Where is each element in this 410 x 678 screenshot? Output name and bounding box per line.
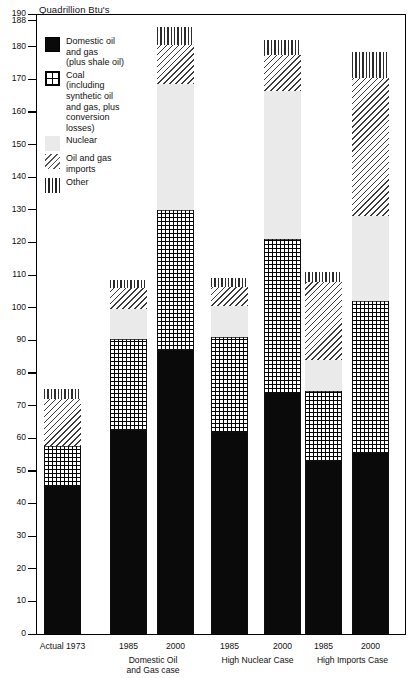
bar-3 [211,278,248,634]
vertical-stripe-swatch [45,178,60,193]
bar-5-segment-imports [305,282,342,360]
stacked-bar-chart: Quadrillion Btu's 1901881801701601501401… [0,0,410,678]
bar-3-segment-nuclear [211,306,248,337]
bar-6-segment-other [352,52,389,78]
legend-item-nuclear: Nuclear [45,135,160,151]
crosshatch-grid-swatch [45,71,60,86]
bar-4 [264,40,301,634]
bar-3-segment-domestic [211,432,248,634]
x-group-label-1: High Nuclear Case [205,655,310,665]
bar-1-segment-domestic [110,430,147,634]
bar-1-segment-nuclear [110,309,147,338]
y-tick-label-80: 80 [0,368,26,377]
bar-2-segment-imports [157,45,194,84]
y-tick-180 [28,46,37,47]
diagonal-hatch-swatch [45,154,60,169]
bar-0-segment-domestic [44,486,81,634]
plot-top-rule [36,14,406,15]
y-tick-30 [28,536,37,537]
y-tick-label-40: 40 [0,498,26,507]
y-tick-40 [28,503,37,504]
y-tick-label-20: 20 [0,564,26,573]
legend-item-domestic: Domestic oiland gas(plus shale oil) [45,36,160,68]
light-gray-swatch [45,136,60,151]
x-group-label-2: High Imports Case [300,655,405,665]
y-tick-label-30: 30 [0,531,26,540]
y-tick-110 [28,275,37,276]
bar-2-segment-nuclear [157,84,194,210]
y-tick-label-140: 140 [0,172,26,181]
legend-item-imports: Oil and gasimports [45,153,160,174]
bar-4-segment-imports [264,55,301,91]
y-axis-line [36,14,37,635]
bar-6-segment-domestic [352,453,389,634]
solid-black-swatch [45,37,60,52]
y-tick-70 [28,405,37,406]
legend-label-coal: Coal(includingsynthetic oiland gas, plus… [66,70,120,134]
x-axis-line [36,634,406,635]
bar-6-segment-imports [352,78,389,217]
y-tick-label-0: 0 [0,629,26,638]
bar-3-segment-coal [211,337,248,432]
bar-6-segment-coal [352,301,389,453]
bar-0-segment-imports [44,399,81,446]
y-tick-60 [28,438,37,439]
y-tick-188 [28,20,37,21]
legend-label-other: Other [66,177,89,188]
legend-label-imports: Oil and gasimports [66,153,112,174]
bar-0-segment-coal [44,446,81,485]
bar-1 [110,280,147,634]
legend-label-nuclear: Nuclear [66,135,97,146]
y-tick-label-110: 110 [0,270,26,279]
y-tick-0 [28,634,37,635]
y-tick-label-150: 150 [0,140,26,149]
chart-legend: Domestic oiland gas(plus shale oil)Coal(… [45,36,160,195]
x-label-0: Actual 1973 [28,641,97,651]
bar-2 [157,27,194,634]
y-tick-170 [28,79,37,80]
bar-5-segment-coal [305,391,342,461]
y-tick-label-170: 170 [0,74,26,83]
x-label-6: 2000 [336,641,405,651]
bar-6 [352,52,389,634]
y-tick-100 [28,307,37,308]
bar-1-segment-coal [110,339,147,430]
y-tick-label-160: 160 [0,107,26,116]
bar-4-segment-other [264,40,301,55]
y-tick-20 [28,568,37,569]
bar-0 [44,389,81,634]
x-group-label-0: Domestic Oiland Gas case [108,655,198,675]
y-tick-label-130: 130 [0,205,26,214]
legend-item-coal: Coal(includingsynthetic oiland gas, plus… [45,70,160,134]
y-tick-80 [28,372,37,373]
bar-4-segment-domestic [264,393,301,634]
bar-4-segment-nuclear [264,91,301,239]
y-tick-label-100: 100 [0,303,26,312]
y-tick-label-188: 188 [0,16,26,25]
y-tick-150 [28,144,37,145]
y-tick-190 [28,14,37,15]
bar-2-segment-coal [157,210,194,350]
y-tick-160 [28,111,37,112]
bar-3-segment-other [211,278,248,286]
bar-3-segment-imports [211,287,248,307]
y-tick-130 [28,209,37,210]
y-tick-label-120: 120 [0,237,26,246]
bar-5-segment-domestic [305,461,342,634]
y-tick-label-10: 10 [0,596,26,605]
bar-0-segment-other [44,389,81,399]
y-tick-label-70: 70 [0,401,26,410]
y-tick-label-180: 180 [0,42,26,51]
y-tick-10 [28,601,37,602]
legend-item-other: Other [45,177,160,193]
y-tick-50 [28,470,37,471]
bar-5 [305,272,342,634]
y-tick-120 [28,242,37,243]
y-tick-label-60: 60 [0,433,26,442]
bar-4-segment-coal [264,239,301,392]
bar-1-segment-imports [110,288,147,309]
legend-label-domestic: Domestic oiland gas(plus shale oil) [66,36,124,68]
y-tick-label-90: 90 [0,335,26,344]
y-tick-label-50: 50 [0,466,26,475]
bar-5-segment-nuclear [305,360,342,391]
